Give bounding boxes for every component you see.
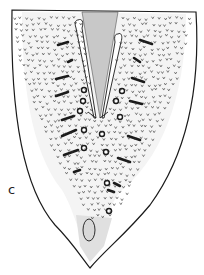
posterior-oval [83,219,95,241]
specimen-illustration [0,0,204,275]
panel-label: c [8,182,15,197]
